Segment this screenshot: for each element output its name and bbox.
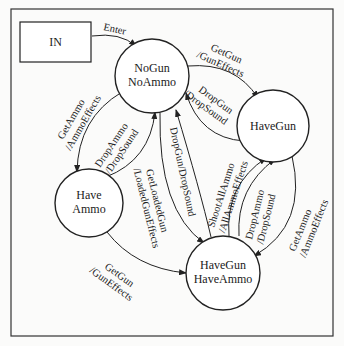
- state-label-line1: NoGun: [134, 61, 169, 75]
- edge-enter: [92, 35, 136, 46]
- state-havegun-haveammo: HaveGun HaveAmmo: [186, 236, 260, 310]
- entry-label: IN: [49, 35, 62, 49]
- state-label-line2: NoAmmo: [128, 75, 176, 89]
- state-label-line1: HaveGun: [250, 119, 296, 133]
- state-label-line2: HaveAmmo: [194, 272, 253, 286]
- state-haveammo: Have Ammo: [55, 169, 123, 237]
- state-nogun-noammo: NoGun NoAmmo: [115, 39, 189, 113]
- entry-box: IN: [20, 22, 91, 62]
- state-havegun: HaveGun: [237, 90, 309, 162]
- state-label-line1: Have: [76, 188, 101, 202]
- label-dropgun-2: DropGun/DropSound: [168, 126, 198, 218]
- state-label-line1: HaveGun: [200, 258, 246, 272]
- state-label-line2: Ammo: [72, 202, 105, 216]
- state-diagram: IN Enter GetGun /GunEffects Dro: [0, 0, 344, 346]
- label-enter: Enter: [103, 21, 128, 37]
